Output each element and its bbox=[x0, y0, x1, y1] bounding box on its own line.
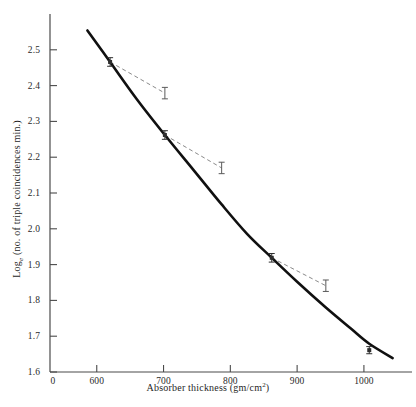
dashed-connector bbox=[165, 135, 222, 168]
y-axis-title-subscript: e bbox=[17, 258, 25, 261]
x-axis-title: Absorber thickness (gm/cm2) bbox=[0, 381, 416, 393]
marker-square bbox=[108, 60, 112, 64]
data-point-offset bbox=[323, 280, 329, 291]
y-axis-title-tail: (no. of triple coincidences min.) bbox=[11, 120, 22, 258]
y-axis-ticks bbox=[50, 50, 57, 372]
y-axis-tick-label: 1.7 bbox=[8, 331, 40, 341]
marker-square bbox=[367, 348, 371, 352]
dashed-connector-lines bbox=[110, 62, 326, 286]
dashed-connector bbox=[110, 62, 165, 93]
y-axis-tick-label: 2.5 bbox=[8, 45, 40, 55]
series-group bbox=[87, 30, 392, 358]
data-point-on-curve bbox=[366, 347, 372, 354]
axes-group bbox=[50, 14, 412, 372]
data-point-markers bbox=[107, 58, 372, 354]
fitted-curve bbox=[87, 30, 392, 358]
figure-container: 1.61.71.81.92.02.12.22.32.42.5 600700800… bbox=[0, 0, 416, 407]
dashed-connector bbox=[272, 258, 326, 286]
x-axis-title-main: Absorber thickness (gm/cm bbox=[147, 382, 263, 393]
x-axis-title-tail: ) bbox=[266, 382, 270, 393]
y-axis-title: Loge (no. of triple coincidences min.) bbox=[11, 89, 25, 309]
marker-square bbox=[163, 133, 167, 137]
x-axis-ticks bbox=[97, 365, 364, 372]
y-axis-tick-label: 1.6 bbox=[8, 367, 40, 377]
y-axis-title-lead: Log bbox=[11, 261, 22, 278]
data-point-offset bbox=[162, 87, 168, 98]
plot-canvas bbox=[0, 0, 416, 407]
data-point-offset bbox=[219, 162, 225, 173]
marker-square bbox=[270, 256, 274, 260]
